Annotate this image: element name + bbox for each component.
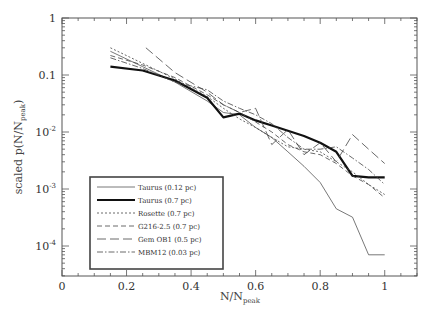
legend: Taurus (0.12 pc)Taurus (0.7 pc)Rosette (…: [90, 177, 223, 269]
legend-label: Rosette (0.7 pc): [138, 210, 195, 218]
y-axis-label-close: ): [12, 100, 25, 104]
chart: 00.20.40.60.81 10.110-210-310-4 N/Npeak …: [0, 0, 433, 319]
legend-label: MBM12 (0.03 pc): [138, 249, 201, 257]
x-axis-label-main: N/N: [220, 290, 243, 303]
legend-label: Gem OB1 (0.5 pc): [138, 236, 202, 244]
y-axis-label-sub: peak: [19, 103, 27, 121]
x-tick-label: 0.8: [311, 280, 329, 293]
x-axis-label-sub: peak: [243, 297, 261, 305]
x-tick-label: 0.6: [247, 280, 265, 293]
x-tick-label: 0.4: [182, 280, 200, 293]
x-tick-label: 0.2: [118, 280, 136, 293]
legend-label: G216-2.5 (0.7 pc): [138, 223, 200, 231]
y-tick-label: 1: [49, 12, 56, 25]
x-tick-label: 0: [59, 280, 66, 293]
y-axis-label-main: scaled p(N/N: [12, 121, 25, 195]
y-tick-label: 0.1: [39, 69, 57, 82]
x-tick-label: 1: [381, 280, 388, 293]
legend-label: Taurus (0.7 pc): [138, 197, 192, 205]
legend-label: Taurus (0.12 pc): [138, 184, 196, 192]
